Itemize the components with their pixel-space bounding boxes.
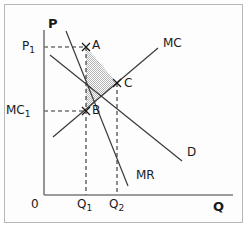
deadweight-loss-region <box>86 47 117 111</box>
demand-curve <box>50 55 182 161</box>
y-tick-mc1: MC1 <box>6 104 30 116</box>
x-tick-q1: Q1 <box>77 198 92 210</box>
x-tick-q1-subscript: 1 <box>86 203 92 213</box>
y-tick-mc1-subscript: 1 <box>25 109 31 119</box>
monopoly-deadweight-loss-figure: P Q 0 P1 MC1 Q1 Q2 MC D MR A B C <box>0 0 249 229</box>
marginal-cost-curve <box>53 48 158 137</box>
origin-label: 0 <box>31 198 39 210</box>
point-a-label: A <box>92 39 100 51</box>
x-axis-title: Q <box>213 200 224 213</box>
y-tick-mc1-base: MC <box>6 103 25 117</box>
marginal-cost-label: MC <box>163 37 182 49</box>
point-c-label: C <box>124 77 132 89</box>
diagram-canvas <box>0 0 249 229</box>
marginal-revenue-label: MR <box>136 169 155 181</box>
x-tick-q2-subscript: 2 <box>118 203 124 213</box>
point-b-label: B <box>92 104 100 116</box>
y-axis-title: P <box>48 17 58 30</box>
y-tick-p1: P1 <box>22 40 35 52</box>
y-tick-p1-subscript: 1 <box>29 45 35 55</box>
demand-label: D <box>187 146 196 158</box>
x-tick-q2: Q2 <box>109 198 124 210</box>
